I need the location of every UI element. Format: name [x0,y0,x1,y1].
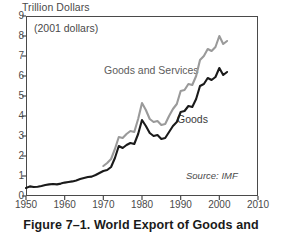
x-tick-label: 1970 [92,200,114,210]
y-tick-label: 5 [10,91,24,101]
x-tick-label: 1960 [54,200,76,210]
y-tick-label: 7 [10,51,24,61]
x-tick-label: 1980 [131,200,153,210]
y-axis-title: Trillion Dollars [22,1,90,13]
source-note: Source: IMF [186,170,238,181]
y-tick-label: 1 [10,171,24,181]
x-tick-label: 2010 [247,200,269,210]
series-label-goods: Goods [177,113,208,125]
figure-container: Trillion Dollars (2001 dollars) Source: … [0,0,282,241]
x-tick-label: 1990 [170,200,192,210]
y-tick-label: 2 [10,151,24,161]
series-label-goods-and-services: Goods and Services [104,64,199,76]
y-tick-label: 8 [10,31,24,41]
figure-caption: Figure 7–1. World Export of Goods and [0,218,282,232]
y-tick-label: 9 [10,11,24,21]
y-tick-label: 4 [10,111,24,121]
y-tick-label: 6 [10,71,24,81]
plot-frame [26,16,258,196]
y-tick-label: 3 [10,131,24,141]
x-tick-label: 2000 [208,200,230,210]
x-tick-label: 1950 [15,200,37,210]
inplot-annotation: (2001 dollars) [34,22,98,34]
